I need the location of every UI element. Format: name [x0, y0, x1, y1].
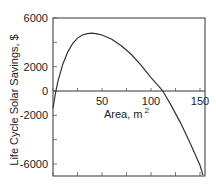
y-tick-label: 2000 — [24, 61, 48, 73]
y-tick-label: 6000 — [24, 12, 48, 24]
x-axis-title-superscript: 2 — [145, 106, 150, 115]
x-axis-tick-labels: 50100150 — [96, 95, 209, 107]
x-axis-ticks — [53, 88, 200, 176]
savings-curve — [53, 33, 203, 175]
y-tick-label: 0 — [42, 85, 48, 97]
x-tick-label: 50 — [96, 95, 108, 107]
x-axis-title-text: Area, m — [104, 108, 143, 120]
plot-frame — [53, 18, 205, 176]
line-chart: 600020000-2000-6000 50100150 Area, m2 Li… — [0, 0, 216, 187]
x-tick-label: 150 — [191, 95, 209, 107]
y-tick-label: -2000 — [20, 109, 48, 121]
x-axis-title: Area, m2 — [104, 106, 150, 120]
y-axis-tick-labels: 600020000-2000-6000 — [20, 12, 48, 170]
y-tick-label: -6000 — [20, 158, 48, 170]
y-axis-title: Life Cycle Solar Savings, $ — [8, 34, 20, 165]
